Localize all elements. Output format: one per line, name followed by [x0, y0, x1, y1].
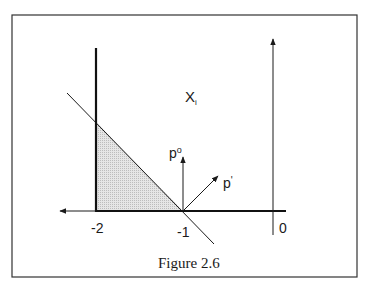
shaded-region	[96, 122, 183, 211]
p-prime-label: p'	[223, 176, 233, 190]
p-prime-vector	[183, 176, 218, 211]
p-zero-label: po	[169, 146, 182, 160]
tick-label-minus-one: -1	[177, 225, 189, 239]
region-label-x-i: Xi	[185, 89, 197, 107]
constraint-line	[67, 93, 214, 244]
p-prime-sup: '	[231, 175, 233, 186]
p-zero-letter: p	[169, 145, 177, 161]
figure-canvas	[0, 0, 365, 292]
region-label-x: X	[185, 88, 195, 105]
p-zero-sup: o	[177, 145, 182, 155]
tick-label-zero: 0	[279, 221, 287, 235]
p-prime-letter: p	[223, 175, 231, 191]
region-label-sub: i	[195, 98, 197, 107]
tick-label-minus-two: -2	[91, 221, 103, 235]
figure-caption: Figure 2.6	[158, 256, 220, 271]
